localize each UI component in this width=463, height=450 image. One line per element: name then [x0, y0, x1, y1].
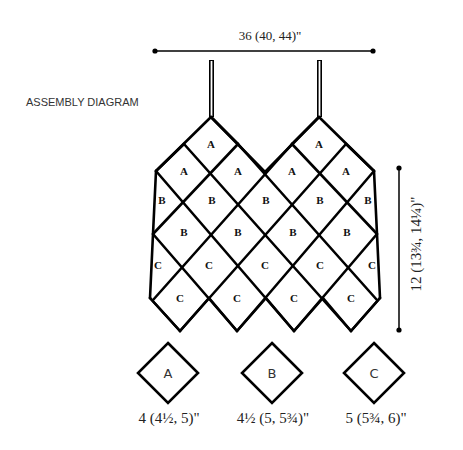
handle-right [317, 60, 322, 117]
diamond-lattice [150, 117, 380, 331]
width-dimension-label: 36 (40, 44)" [225, 28, 315, 44]
cell-label-b: B [316, 194, 324, 206]
cell-label-c: C [176, 292, 184, 304]
cell-label-b: B [364, 194, 372, 206]
cell-label-b: B [289, 226, 297, 238]
cell-label-c: C [368, 259, 376, 271]
piece-c-size-label: 5 (5¾, 6)" [316, 410, 436, 427]
handle-left [209, 60, 214, 117]
cell-label-c: C [261, 259, 269, 271]
cell-label-a: A [342, 165, 350, 177]
cell-label-c: C [316, 259, 324, 271]
cell-label-c: C [205, 259, 213, 271]
cell-label-b: B [234, 226, 242, 238]
piece-a-size-label: 4 (4½, 5)" [109, 410, 229, 427]
cell-label-c: C [347, 292, 355, 304]
cell-label-c: C [154, 259, 162, 271]
diagram-title: ASSEMBLY DIAGRAM [26, 96, 139, 108]
cell-label-b: B [343, 226, 351, 238]
cell-label-a: A [180, 165, 188, 177]
cell-labels: AAAAAABBBBBBBBBCCCCCCCCC [154, 138, 376, 304]
cell-label-c: C [233, 292, 241, 304]
assembly-diagram-canvas: AAAAAABBBBBBBBBCCCCCCCCC ABC ASSEMBLY DI… [0, 0, 463, 450]
cell-label-a: A [234, 165, 242, 177]
piece-b-diamond: B [242, 343, 302, 403]
piece-c-diamond: C [344, 343, 404, 403]
cell-label-c: C [290, 292, 298, 304]
piece-a-letter: A [164, 366, 173, 381]
cell-label-a: A [315, 138, 323, 150]
cell-label-b: B [180, 226, 188, 238]
cell-label-b: B [158, 194, 166, 206]
top-outline [156, 117, 374, 172]
height-dimension-line [396, 165, 401, 332]
piece-key: ABC [138, 343, 404, 403]
width-dimension-line [152, 48, 375, 53]
cell-label-a: A [288, 165, 296, 177]
piece-b-letter: B [268, 366, 277, 381]
cell-label-a: A [207, 138, 215, 150]
piece-c-letter: C [369, 366, 378, 381]
assembly-diagram-svg: AAAAAABBBBBBBBBCCCCCCCCC ABC [0, 0, 463, 450]
cell-label-b: B [208, 194, 216, 206]
piece-a-diamond: A [138, 343, 198, 403]
piece-b-size-label: 4½ (5, 5¾)" [213, 410, 333, 427]
height-dimension-label: 12 (13¾, 14¼)" [408, 197, 425, 292]
cell-label-b: B [262, 194, 270, 206]
